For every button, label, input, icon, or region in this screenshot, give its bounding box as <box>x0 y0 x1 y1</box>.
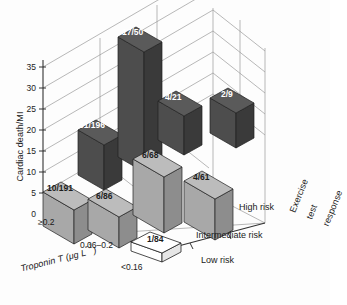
bar-label-4-61: 4/61 <box>193 172 210 182</box>
bar-label-10-191: 10/191 <box>47 183 73 193</box>
bar-label-4-21: 4/21 <box>165 92 182 102</box>
bar-label-6-68: 6/68 <box>142 150 159 160</box>
z-tick-high-risk: High risk <box>239 203 274 212</box>
bar-label-31-196: 31/196 <box>79 120 105 130</box>
y-tick-30: 30 <box>16 84 36 93</box>
y-tick-35: 35 <box>16 63 36 72</box>
y-tick-0: 0 <box>16 210 36 219</box>
bar-label-17-50: 17/50 <box>122 27 143 37</box>
bar-label-1-84: 1/84 <box>147 234 164 244</box>
x-axis-title-paren: ) <box>92 245 97 255</box>
x-tick-ge-0-2: ≥0.2 <box>38 218 54 227</box>
bar-label-6-86: 6/86 <box>96 191 113 201</box>
y-axis-title: Cardiac death/MI <box>16 101 25 193</box>
bar-label-2-9: 2/9 <box>221 89 233 99</box>
bar-intermediate-risk-col3 <box>133 149 182 233</box>
z-tick-low-risk: Low risk <box>201 256 234 265</box>
x-tick-lt-0-16: <0.16 <box>121 263 143 272</box>
z-tick-intermediate-risk: Intermediate risk <box>196 231 263 240</box>
bar-high-risk-col1 <box>78 120 122 190</box>
